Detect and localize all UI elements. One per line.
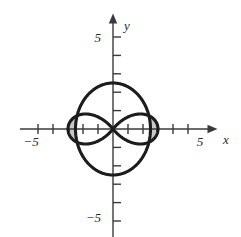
y-tick-label-negative-5: −5 bbox=[86, 210, 102, 225]
axes-group bbox=[20, 13, 218, 237]
y-axis-arrow-icon bbox=[109, 13, 117, 23]
y-axis-label: y bbox=[122, 18, 130, 33]
polar-graph-figure: x y 5 −5 5 −5 bbox=[0, 0, 241, 237]
x-tick-label-positive-5: 5 bbox=[197, 134, 204, 149]
plot-canvas: x y 5 −5 5 −5 bbox=[0, 0, 241, 237]
x-axis-label: x bbox=[222, 132, 229, 147]
x-axis-arrow-icon bbox=[208, 125, 218, 133]
labels-group: x y 5 −5 5 −5 bbox=[23, 18, 229, 225]
x-tick-label-negative-5: −5 bbox=[23, 134, 39, 149]
y-tick-label-positive-5: 5 bbox=[95, 30, 102, 45]
